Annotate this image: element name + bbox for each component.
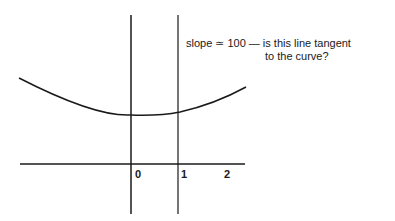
tick-label-0: 0 bbox=[135, 168, 141, 180]
annotation-line-2: to the curve? bbox=[265, 50, 329, 63]
annotation-line-1: slope ≃ 100 — is this line tangent bbox=[186, 37, 351, 50]
tick-label-2: 2 bbox=[224, 168, 230, 180]
tick-label-1: 1 bbox=[181, 168, 187, 180]
diagram-canvas bbox=[0, 0, 395, 221]
curve bbox=[19, 78, 246, 115]
